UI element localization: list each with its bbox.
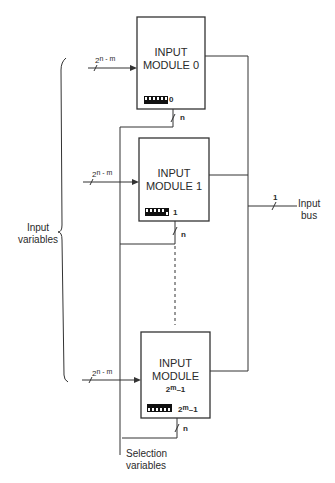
module-1-input-width: 2n - m xyxy=(92,169,112,181)
module-0-switch-label: 0 xyxy=(169,94,173,106)
module-last-input-width: 2n - m xyxy=(92,368,112,380)
module-1-switch xyxy=(145,208,169,216)
output-bus-width: 1 xyxy=(273,192,277,204)
module-0-title: INPUT MODULE 0 xyxy=(137,46,205,72)
input-variables-label: Input variables xyxy=(18,222,58,246)
module-last-selection-width: n xyxy=(183,423,188,435)
output-bus-label: Input bus xyxy=(298,198,320,222)
module-last-title: INPUT MODULE 2m–1 xyxy=(141,357,210,396)
module-1-switch-label: 1 xyxy=(173,207,177,219)
module-0-input-width: 2n - m xyxy=(95,55,115,67)
module-0-selection-width: n xyxy=(180,112,185,124)
module-0-switch xyxy=(144,96,168,104)
selection-variables-label: Selection variables xyxy=(126,448,167,472)
module-1-selection-width: n xyxy=(181,229,186,241)
module-last-switch-label: 2m–1 xyxy=(178,404,198,416)
module-1-title: INPUT MODULE 1 xyxy=(139,167,209,193)
